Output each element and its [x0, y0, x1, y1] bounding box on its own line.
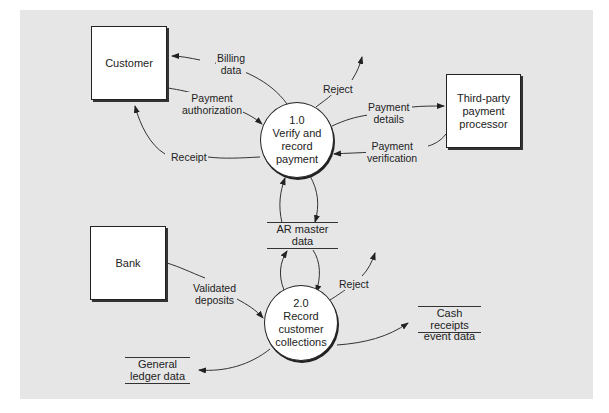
- process-name-line: customer: [278, 323, 323, 336]
- flow-label-line: deposits: [193, 294, 236, 306]
- flow-label-reject-1: Reject: [322, 83, 354, 95]
- flow-label-line: Receipt: [171, 151, 207, 163]
- flow-label-payment-verification: Payment verification: [366, 140, 418, 164]
- entity-bank-label: Bank: [115, 257, 140, 270]
- store-general-ledger-data: General ledger data: [125, 357, 190, 384]
- flow-ar-to-p2: [280, 251, 287, 290]
- flow-payment-details: [332, 115, 368, 126]
- entity-customer: Customer: [91, 26, 167, 100]
- entity-processor-label: Third-party payment processor: [453, 92, 514, 131]
- store-label-line: Cash receipts: [418, 308, 481, 331]
- process-name-line: payment: [276, 153, 318, 166]
- process-2-record-collections: 2.0 Record customer collections: [264, 285, 338, 361]
- process-name-line: collections: [275, 336, 326, 349]
- flow-reject-2: [330, 290, 345, 300]
- flow-label-reject-2: Reject: [338, 278, 370, 290]
- process-number: 2.0: [293, 297, 308, 310]
- store-label-line: event data: [418, 331, 481, 343]
- flow-label-receipt: Receipt: [170, 151, 208, 163]
- store-label-line: data: [267, 236, 338, 248]
- entity-customer-label: Customer: [105, 57, 153, 70]
- flow-label-line: verification: [367, 152, 417, 164]
- flow-label-line: data: [217, 64, 245, 76]
- flow-to-general-ledger: [199, 349, 270, 370]
- flow-label-line: Billing: [217, 52, 245, 64]
- process-number: 1.0: [289, 114, 304, 127]
- flow-label-validated-deposits: Validated deposits: [192, 282, 237, 306]
- flow-label-line: Reject: [339, 278, 369, 290]
- flow-ar-to-p1: [280, 178, 285, 223]
- flow-label-line: Validated: [193, 282, 236, 294]
- store-label-line: General: [125, 359, 190, 371]
- flow-payment-verification: [428, 134, 446, 146]
- flow-validated-deposits: [167, 263, 205, 278]
- flow-reject-1: [316, 93, 333, 107]
- flow-label-line: details: [368, 113, 409, 125]
- flow-label-payment-details: Payment details: [367, 101, 410, 125]
- process-name-line: Verify and: [273, 127, 322, 140]
- flow-label-line: Payment: [367, 140, 417, 152]
- flow-to-cash-receipts: [337, 323, 408, 345]
- flow-label-line: Payment: [368, 101, 409, 113]
- flow-label-line: Payment: [182, 92, 242, 104]
- store-label-line: ledger data: [125, 371, 190, 383]
- process-name-line: record: [281, 140, 312, 153]
- flow-receipt: [208, 157, 260, 158]
- store-ar-master-data: AR master data: [267, 222, 338, 249]
- flow-label-payment-authorization: Payment authorization: [181, 92, 243, 116]
- entity-third-party-processor: Third-party payment processor: [446, 74, 521, 148]
- flow-p1-to-ar: [310, 176, 318, 222]
- process-1-verify-record-payment: 1.0 Verify and record payment: [260, 102, 334, 178]
- store-cash-receipts-event-data: Cash receipts event data: [418, 306, 481, 333]
- flow-p2-to-ar: [313, 250, 319, 292]
- flow-label-billing-data: Billing data: [216, 52, 246, 76]
- flow-label-line: authorization: [182, 104, 242, 116]
- process-name-line: Record: [283, 310, 318, 323]
- entity-bank: Bank: [90, 226, 166, 300]
- store-label-line: AR master: [267, 224, 338, 236]
- flow-label-line: Reject: [323, 83, 353, 95]
